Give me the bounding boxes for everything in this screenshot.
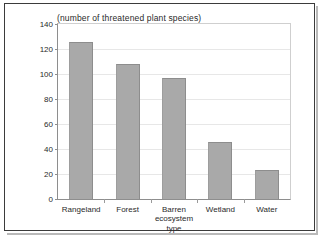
x-axis-label-line1: ecosystem: [155, 214, 193, 224]
x-tick-label: Barren: [162, 205, 186, 214]
x-tick-label: Rangeland: [62, 205, 101, 214]
y-tick-label: 80: [44, 95, 53, 104]
bar: [255, 170, 279, 199]
x-axis-label-line2: type: [155, 224, 193, 234]
x-tick-label: Wetland: [206, 205, 235, 214]
bar: [162, 78, 186, 199]
x-tick-mark: [151, 199, 152, 203]
bar: [69, 42, 93, 200]
y-tick-label: 140: [40, 20, 53, 29]
bar: [116, 64, 140, 199]
y-tick-mark: [55, 149, 58, 150]
x-axis-label: ecosystemtype: [155, 214, 193, 233]
y-tick-mark: [55, 124, 58, 125]
y-tick-label: 0: [49, 195, 53, 204]
x-tick-mark: [244, 199, 245, 203]
y-tick-mark: [55, 99, 58, 100]
x-tick-mark: [104, 199, 105, 203]
y-tick-label: 100: [40, 70, 53, 79]
y-tick-mark: [55, 199, 58, 200]
bar: [208, 142, 232, 200]
y-tick-label: 40: [44, 145, 53, 154]
y-tick-mark: [55, 174, 58, 175]
y-tick-mark: [55, 49, 58, 50]
figure-frame: (number of threatened plant species) 020…: [4, 3, 315, 231]
x-tick-label: Water: [256, 205, 277, 214]
chart-title: (number of threatened plant species): [57, 13, 201, 23]
y-tick-label: 120: [40, 45, 53, 54]
y-tick-label: 20: [44, 170, 53, 179]
y-tick-mark: [55, 24, 58, 25]
plot-area: 020406080100120140 RangelandForestBarren…: [57, 23, 291, 200]
x-tick-mark: [197, 199, 198, 203]
x-tick-label: Forest: [116, 205, 139, 214]
y-tick-mark: [55, 74, 58, 75]
y-tick-label: 60: [44, 120, 53, 129]
